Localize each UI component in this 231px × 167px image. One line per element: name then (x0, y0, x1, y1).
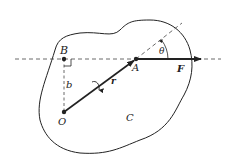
label-theta: θ (159, 46, 165, 56)
label-r-vector: r (111, 76, 117, 86)
point-o (62, 110, 66, 114)
label-b-distance: b (66, 79, 72, 90)
label-a-point: A (131, 62, 139, 73)
label-force-f: F (176, 63, 185, 74)
label-o-point: O (58, 116, 66, 127)
moment-diagram: B A F θ b r O C (0, 0, 231, 167)
body-outline (39, 20, 192, 153)
point-b (62, 57, 66, 61)
label-body-c: C (126, 112, 134, 123)
label-b-point: B (59, 44, 68, 57)
point-a (134, 57, 138, 61)
